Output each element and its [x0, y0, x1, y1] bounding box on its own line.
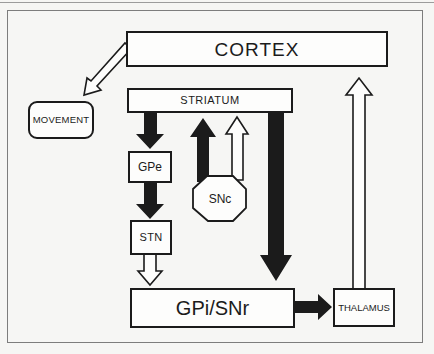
node-cortex: CORTEX	[126, 31, 388, 67]
gpe-label: GPe	[138, 161, 162, 173]
arrow-cortex-to-movement	[84, 43, 131, 95]
arrow-gpi-snr-to-thalamus	[294, 294, 332, 320]
arrow-striatum-to-gpi-snr	[260, 110, 292, 281]
arrow-striatum-to-gpe	[136, 110, 164, 149]
arrow-thalamus-to-cortex	[346, 78, 372, 292]
node-gpe: GPe	[128, 151, 172, 183]
cortex-label: CORTEX	[215, 40, 300, 59]
node-thalamus: THALAMUS	[333, 288, 395, 327]
node-stn: STN	[130, 220, 172, 255]
arrow-snc-to-striatum-inhibitory	[226, 117, 248, 180]
snc-label: SNc	[193, 176, 247, 221]
arrow-stn-to-gpi-snr	[138, 250, 162, 285]
arrow-gpe-to-stn	[136, 180, 164, 219]
striatum-label: STRIATUM	[180, 95, 239, 106]
thalamus-label: THALAMUS	[338, 303, 390, 313]
stn-label: STN	[140, 232, 163, 243]
node-striatum: STRIATUM	[127, 88, 293, 113]
node-gpi-snr: GPi/SNr	[130, 288, 295, 328]
arrow-snc-to-striatum-excitatory	[190, 118, 216, 182]
movement-label: MOVEMENT	[33, 115, 90, 125]
node-movement: MOVEMENT	[28, 101, 94, 139]
gpi-snr-label: GPi/SNr	[176, 298, 249, 318]
scanned-diagram-page: CORTEX STRIATUM MOVEMENT GPe STN GPi/SNr…	[0, 0, 434, 354]
